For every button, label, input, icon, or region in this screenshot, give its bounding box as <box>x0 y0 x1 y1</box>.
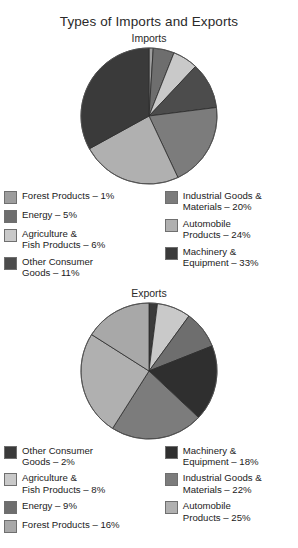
exports-pie-chart <box>79 301 219 441</box>
legend-swatch-icon <box>165 501 178 514</box>
legend-item: Agriculture & Fish Products – 6% <box>4 228 165 251</box>
exports-legend-right-column: Machinery & Equipment – 18% Industrial G… <box>165 445 294 539</box>
exports-legend: Other Consumer Goods – 2% Agriculture & … <box>0 445 298 539</box>
legend-item-label: Industrial Goods & Materials – 20% <box>183 190 262 213</box>
legend-item-label: Other Consumer Goods – 2% <box>22 445 93 468</box>
legend-item: Forest Products – 1% <box>4 190 165 204</box>
exports-pie-wrap <box>0 301 298 441</box>
legend-swatch-icon <box>165 191 178 204</box>
legend-item: Industrial Goods & Materials – 20% <box>165 190 294 213</box>
legend-item: Other Consumer Goods – 11% <box>4 256 165 279</box>
legend-item-label: Agriculture & Fish Products – 6% <box>22 228 105 251</box>
legend-item-label: Other Consumer Goods – 11% <box>22 256 93 279</box>
legend-item: Automobile Products – 24% <box>165 218 294 241</box>
imports-chart-title: Imports <box>0 32 298 44</box>
imports-legend-right-column: Industrial Goods & Materials – 20% Autom… <box>165 190 294 284</box>
chart-page: Types of Imports and Exports Imports For… <box>0 0 298 548</box>
legend-swatch-icon <box>4 257 17 270</box>
legend-item-label: Energy – 5% <box>22 209 77 220</box>
legend-item-label: Automobile Products – 25% <box>183 500 251 523</box>
legend-swatch-icon <box>165 446 178 459</box>
legend-swatch-icon <box>165 219 178 232</box>
legend-swatch-icon <box>4 520 17 533</box>
legend-item: Machinery & Equipment – 33% <box>165 246 294 269</box>
legend-item: Automobile Products – 25% <box>165 500 294 523</box>
legend-swatch-icon <box>4 210 17 223</box>
legend-item-label: Industrial Goods & Materials – 22% <box>183 472 262 495</box>
legend-swatch-icon <box>165 473 178 486</box>
legend-item: Energy – 5% <box>4 209 165 223</box>
legend-item: Energy – 9% <box>4 500 165 514</box>
exports-chart-title: Exports <box>0 287 298 299</box>
legend-item-label: Forest Products – 16% <box>22 519 120 530</box>
page-title: Types of Imports and Exports <box>0 0 298 29</box>
legend-swatch-icon <box>4 191 17 204</box>
exports-legend-left-column: Other Consumer Goods – 2% Agriculture & … <box>4 445 165 539</box>
legend-item-label: Machinery & Equipment – 33% <box>183 246 259 269</box>
imports-pie-chart <box>79 46 219 186</box>
legend-item: Agriculture & Fish Products – 8% <box>4 472 165 495</box>
imports-legend-left-column: Forest Products – 1% Energy – 5% Agricul… <box>4 190 165 284</box>
legend-swatch-icon <box>4 501 17 514</box>
legend-item-label: Agriculture & Fish Products – 8% <box>22 472 105 495</box>
legend-item: Forest Products – 16% <box>4 519 165 533</box>
legend-swatch-icon <box>4 446 17 459</box>
legend-item: Machinery & Equipment – 18% <box>165 445 294 468</box>
legend-item: Industrial Goods & Materials – 22% <box>165 472 294 495</box>
imports-legend: Forest Products – 1% Energy – 5% Agricul… <box>0 190 298 284</box>
legend-swatch-icon <box>4 229 17 242</box>
legend-item: Other Consumer Goods – 2% <box>4 445 165 468</box>
legend-item-label: Forest Products – 1% <box>22 190 114 201</box>
legend-item-label: Energy – 9% <box>22 500 77 511</box>
legend-item-label: Machinery & Equipment – 18% <box>183 445 259 468</box>
legend-item-label: Automobile Products – 24% <box>183 218 251 241</box>
exports-section: Exports Other Consumer Goods – 2% Agricu… <box>0 287 298 539</box>
legend-swatch-icon <box>4 473 17 486</box>
legend-swatch-icon <box>165 247 178 260</box>
imports-pie-wrap <box>0 46 298 186</box>
